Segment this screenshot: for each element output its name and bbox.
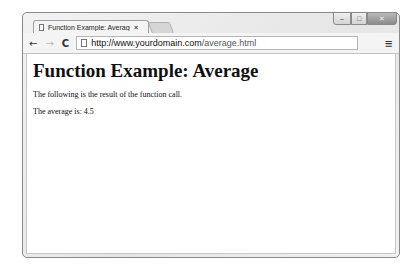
page-content: Function Example: Average The following …: [26, 54, 396, 254]
tab-title: Function Example: Average: [48, 24, 130, 31]
back-arrow-icon[interactable]: ←: [29, 38, 37, 49]
result-paragraph: The average is: 4.5: [33, 107, 389, 116]
reload-icon[interactable]: C: [62, 38, 69, 49]
url-path: /average.html: [202, 38, 257, 48]
hamburger-menu-icon[interactable]: ≡: [385, 38, 393, 49]
intro-paragraph: The following is the result of the funct…: [33, 90, 389, 99]
maximize-button[interactable]: □: [351, 12, 367, 25]
title-bar: Function Example: Average × – □ ✕: [23, 13, 399, 30]
minimize-button[interactable]: –: [333, 12, 351, 25]
document-icon: [39, 24, 44, 31]
browser-window: Function Example: Average × – □ ✕ ← → C …: [22, 12, 400, 258]
tab-close-button[interactable]: ×: [134, 24, 138, 31]
close-window-button[interactable]: ✕: [367, 12, 397, 25]
address-bar[interactable]: http://www.yourdomain.com/average.html: [76, 36, 358, 50]
tab-function-example[interactable]: Function Example: Average ×: [33, 20, 149, 33]
forward-arrow-icon[interactable]: →: [45, 38, 53, 49]
page-icon: [81, 39, 87, 47]
url-host: http://www.yourdomain.com: [91, 38, 202, 48]
window-controls: – □ ✕: [333, 12, 397, 25]
browser-toolbar: ← → C http://www.yourdomain.com/average.…: [23, 33, 399, 54]
page-title: Function Example: Average: [33, 60, 389, 82]
